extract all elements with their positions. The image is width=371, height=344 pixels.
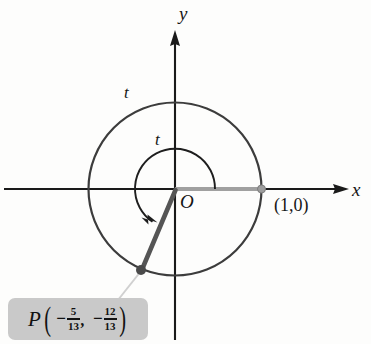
outer-arc-length-label: t (124, 84, 129, 101)
y-axis-label: y (179, 4, 187, 23)
x-numerator: 5 (71, 306, 77, 318)
inner-arc-arrowhead (142, 215, 158, 225)
y-axis-arrowhead (170, 30, 180, 46)
inner-arc-length-label: t (155, 131, 160, 148)
unit-point-label: (1,0) (274, 196, 309, 214)
unit-point-marker (258, 185, 266, 193)
x-axis-arrowhead (333, 184, 349, 194)
terminal-point-expression: P ( − 5 13 , − 12 13 ) (28, 306, 128, 333)
close-paren: ) (119, 306, 126, 333)
point-name-label: P (28, 307, 41, 332)
terminal-point-label-box: P ( − 5 13 , − 12 13 ) (8, 298, 148, 340)
point-leader-line (118, 271, 141, 300)
terminal-radius (142, 190, 176, 270)
terminal-point-marker (136, 265, 146, 275)
origin-label: O (180, 192, 194, 211)
open-paren: ( (44, 306, 51, 333)
y-denominator: 13 (105, 321, 116, 333)
y-coordinate-fraction: 12 13 (104, 306, 117, 333)
x-axis-label: x (352, 180, 360, 199)
coordinate-comma: , (81, 312, 85, 330)
x-coordinate-fraction: 5 13 (67, 306, 80, 333)
y-numerator: 12 (105, 306, 116, 318)
x-minus-sign: − (56, 309, 66, 329)
x-denominator: 13 (68, 321, 79, 333)
unit-circle-diagram (0, 0, 371, 344)
y-minus-sign: − (93, 309, 103, 329)
